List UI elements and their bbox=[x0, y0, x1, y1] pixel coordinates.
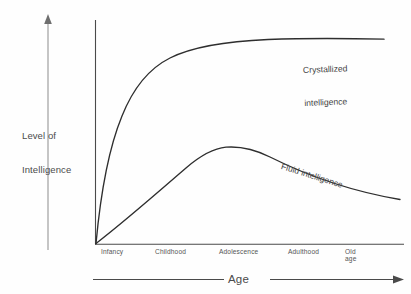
x-axis-title: Age bbox=[228, 273, 249, 287]
curve-fluid-intelligence bbox=[96, 147, 400, 244]
x-tick-label-adolescence: Adolescence bbox=[219, 248, 258, 255]
intelligence-chart-figure: Level of Intelligence Infancy Childhood … bbox=[0, 0, 411, 294]
series-label-crystallized-line1: Crystallized bbox=[303, 64, 348, 76]
y-axis-label-line2: Intelligence bbox=[22, 164, 100, 175]
y-axis-label-line1: Level of bbox=[22, 130, 100, 141]
series-label-crystallized: Crystallized intelligence bbox=[302, 42, 350, 130]
x-tick-label-infancy: Infancy bbox=[101, 248, 123, 255]
x-tick-label-childhood: Childhood bbox=[155, 248, 186, 255]
series-label-crystallized-line2: intelligence bbox=[304, 96, 349, 108]
y-axis-label: Level of Intelligence bbox=[22, 108, 100, 198]
x-direction-arrow-icon bbox=[393, 275, 404, 283]
y-direction-arrow-icon bbox=[44, 14, 52, 24]
x-tick-label-adulthood: Adulthood bbox=[288, 248, 319, 255]
x-tick-label-old-age: Old age bbox=[345, 248, 356, 262]
